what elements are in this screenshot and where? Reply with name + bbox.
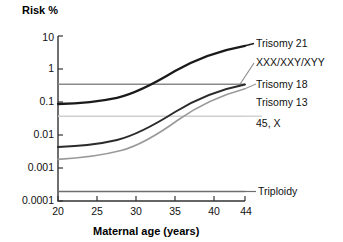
risk-by-maternal-age-chart: Risk % Maternal age (years) 10 1 0.1 0.0… — [0, 0, 343, 242]
leader-line-trisomy21 — [245, 44, 254, 46]
series-label-45x: 45, X — [256, 117, 281, 129]
series-line-trisomy21 — [58, 46, 245, 104]
y-axis-ticks — [58, 36, 63, 201]
series-label-triploidy: Triploidy — [258, 185, 297, 197]
series-line-trisomy13 — [58, 89, 245, 160]
axis-lines — [58, 36, 245, 201]
x-axis-ticks — [58, 196, 245, 201]
series-label-trisomy13: Trisomy 13 — [256, 96, 308, 108]
leader-line-sexchrom — [240, 63, 254, 84]
leader-line-trisomy13 — [245, 84, 256, 89]
series-label-trisomy18: Trisomy 18 — [256, 78, 308, 90]
series-label-trisomy21: Trisomy 21 — [256, 37, 308, 49]
series-label-sexchrom: XXX/XXY/XYY — [256, 56, 325, 68]
